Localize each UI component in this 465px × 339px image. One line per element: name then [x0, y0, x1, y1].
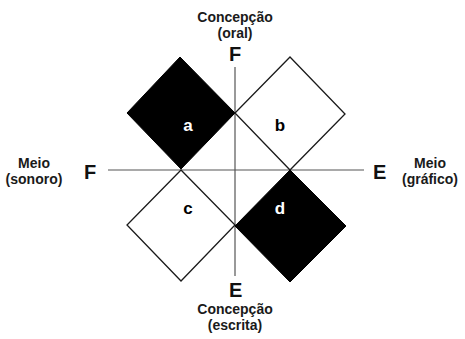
bottom-axis-label-line2: (escrita): [185, 317, 285, 333]
left-axis-label: Meio (sonoro): [4, 155, 64, 187]
right-axis-label: Meio (gráfico): [398, 155, 462, 187]
right-axis-label-line1: Meio: [398, 155, 462, 171]
quadrant-c-label: c: [178, 200, 198, 218]
left-axis-label-line2: (sonoro): [4, 171, 64, 187]
top-axis-label-line2: (oral): [185, 25, 285, 41]
left-pole-label: F: [84, 162, 96, 182]
left-axis-label-line1: Meio: [4, 155, 64, 171]
quadrant-c-shape: [127, 170, 235, 281]
top-pole-label: F: [229, 44, 241, 64]
quadrant-b-label: b: [270, 117, 290, 135]
bottom-axis-label-line1: Concepção: [185, 301, 285, 317]
quadrant-b-shape: [235, 57, 345, 170]
bottom-pole-label: E: [229, 280, 242, 300]
top-axis-label-line1: Concepção: [185, 9, 285, 25]
quadrant-d-shape: [235, 170, 346, 282]
top-axis-label: Concepção (oral): [185, 9, 285, 41]
right-axis-label-line2: (gráfico): [398, 171, 462, 187]
quadrant-d-label: d: [270, 200, 290, 218]
bottom-axis-label: Concepção (escrita): [185, 301, 285, 333]
quadrant-a-label: a: [178, 117, 198, 135]
quadrant-a-shape: [127, 57, 235, 169]
right-pole-label: E: [373, 162, 386, 182]
